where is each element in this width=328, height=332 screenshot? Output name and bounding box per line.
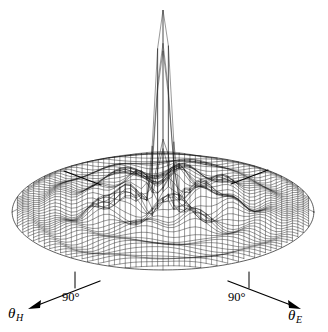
surface-mesh — [12, 10, 314, 270]
axis-label-theta-h-subscript: H — [16, 312, 23, 323]
surface-plot-canvas — [0, 0, 328, 332]
axis-label-theta-h-symbol: θ — [8, 305, 15, 321]
axis-label-theta-e-subscript: E — [296, 314, 302, 325]
axis-label-theta-e-symbol: θ — [288, 307, 295, 323]
axis-label-theta-e: θE — [288, 307, 302, 325]
axis-arrowhead-theta-h — [28, 300, 41, 309]
axis-label-theta-h: θH — [8, 305, 23, 323]
tick-label-theta-e-90: 90° — [228, 290, 246, 305]
surface-plot-figure: θH θE 90° 90° — [0, 0, 328, 332]
tick-label-theta-h-90: 90° — [62, 290, 80, 305]
